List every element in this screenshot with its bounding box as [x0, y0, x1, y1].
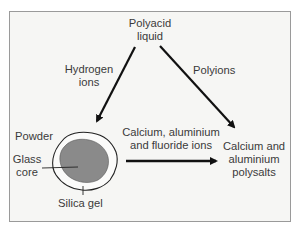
glass-core-line1: Glass: [12, 153, 42, 166]
polyacid-line1: Polyacid: [123, 17, 177, 30]
hydrogen-ions-label: Hydrogen ions: [60, 63, 118, 89]
glass-core-line2: core: [12, 166, 42, 179]
polysalts-line3: polysalts: [218, 166, 290, 179]
metal-ions-line2: and fluoride ions: [119, 139, 223, 152]
metal-ions-line1: Calcium, aluminium: [119, 126, 223, 139]
polyions-arrow: [160, 46, 234, 127]
hydrogen-ions-line2: ions: [60, 76, 118, 89]
polysalts-label: Calcium and aluminium polysalts: [218, 140, 290, 179]
polysalts-line2: aluminium: [218, 153, 290, 166]
metal-ions-label: Calcium, aluminium and fluoride ions: [119, 126, 223, 152]
powder-label: Powder: [15, 130, 53, 143]
hydrogen-ions-line1: Hydrogen: [60, 63, 118, 76]
glass-core-label: Glass core: [12, 153, 42, 179]
polysalts-line1: Calcium and: [218, 140, 290, 153]
polyacid-line2: liquid: [123, 30, 177, 43]
polyacid-liquid-label: Polyacid liquid: [123, 17, 177, 43]
silica-gel-label: Silica gel: [58, 197, 103, 210]
polyions-label: Polyions: [193, 64, 235, 77]
